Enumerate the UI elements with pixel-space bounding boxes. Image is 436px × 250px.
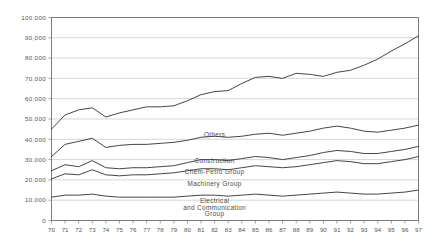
x-axis-tick-label: 86	[266, 226, 273, 233]
y-axis-tick-label: 40,000	[25, 136, 46, 143]
series-line	[52, 146, 419, 170]
x-axis-tick-label: 77	[143, 226, 150, 233]
y-axis-tick-label: 100,000	[21, 14, 46, 21]
x-axis-tick-label: 79	[170, 226, 177, 233]
y-axis-tick-label: 60,000	[25, 95, 46, 102]
y-axis-tick-label: 90,000	[25, 34, 46, 41]
y-axis-tick-label: 20,000	[25, 176, 46, 183]
x-axis-tick-label: 91	[333, 226, 340, 233]
series-annotation-label: Others	[204, 131, 225, 138]
line-chart: 010,00020,00030,00040,00050,00060,00070,…	[0, 0, 436, 250]
x-axis-tick-label: 92	[347, 226, 354, 233]
x-axis-tick-label: 75	[116, 226, 123, 233]
x-axis-tick-label: 78	[157, 226, 164, 233]
gridlines-group	[52, 38, 419, 200]
x-axis-tick-label: 72	[75, 226, 82, 233]
y-axis-tick-label: 10,000	[25, 196, 46, 203]
x-axis-tick-label: 81	[198, 226, 205, 233]
x-axis-tick-label: 89	[306, 226, 313, 233]
y-axis-tick-label: 0	[42, 217, 46, 224]
x-axis-tick-label: 83	[225, 226, 232, 233]
series-annotation-label: Machinery Group	[187, 180, 241, 188]
y-axis-tick-label: 70,000	[25, 75, 46, 82]
y-axis-tick-label: 30,000	[25, 156, 46, 163]
series-annotations-group: OthersConstructionChem-Petro GroupMachin…	[183, 131, 246, 218]
x-axis-tick-label: 76	[130, 226, 137, 233]
x-axis-tick-label: 90	[320, 226, 327, 233]
x-axis-tick-label: 74	[102, 226, 109, 233]
x-axis-tick-label: 71	[62, 226, 69, 233]
y-axis-tick-label: 50,000	[25, 115, 46, 122]
x-axis-tick-label: 87	[279, 226, 286, 233]
series-annotation-label: Construction	[195, 157, 235, 164]
x-axis-tick-label: 97	[415, 226, 422, 233]
x-axis-tick-label: 84	[238, 226, 245, 233]
chart-container: 010,00020,00030,00040,00050,00060,00070,…	[0, 0, 436, 250]
x-axis-tick-labels: 7071727374757677787980818283848586878889…	[48, 226, 422, 233]
y-axis-tick-label: 80,000	[25, 54, 46, 61]
series-line	[52, 190, 419, 197]
series-line	[52, 125, 419, 156]
x-axis-tick-label: 88	[293, 226, 300, 233]
x-axis-tick-label: 93	[361, 226, 368, 233]
series-annotation-label: Chem-Petro Group	[185, 168, 245, 176]
y-axis-tick-labels: 010,00020,00030,00040,00050,00060,00070,…	[21, 14, 51, 224]
x-axis-tick-label: 94	[374, 226, 381, 233]
x-axis-tick-label: 82	[211, 226, 218, 233]
series-annotation-label: Group	[205, 210, 225, 218]
x-axis-tick-label: 85	[252, 226, 259, 233]
x-axis-tick-label: 73	[89, 226, 96, 233]
series-line	[52, 36, 419, 129]
x-axis-tick-label: 70	[48, 226, 55, 233]
x-axis-tick-label: 96	[401, 226, 408, 233]
x-axis-tick-label: 80	[184, 226, 191, 233]
x-axis-tick-label: 95	[388, 226, 395, 233]
